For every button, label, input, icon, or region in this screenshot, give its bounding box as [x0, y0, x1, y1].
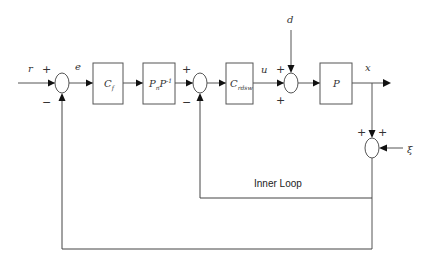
sign-sum4-left: + [357, 126, 366, 139]
arrow-icon [136, 80, 143, 87]
control-block-diagram: Cf PnP-1 Crdsw P r e u d x ξ + − + − + +… [0, 0, 429, 266]
summing-junction-1 [55, 73, 69, 93]
output-arrow-icon [383, 79, 391, 87]
disturbance-label: d [287, 14, 293, 25]
block-plant: P [320, 63, 352, 104]
arrow-icon [197, 93, 204, 101]
arrow-icon [219, 80, 226, 87]
arrow-icon [59, 93, 66, 101]
noise-label: ξ [407, 144, 413, 155]
sign-sum2-bottom: − [182, 96, 191, 109]
block-pnp-inverse: PnP-1 [143, 63, 175, 104]
sign-sum1-top: + [42, 63, 51, 76]
block-cf: Cf [93, 63, 123, 104]
sign-sum2-top: + [182, 63, 191, 76]
control-label: u [261, 64, 267, 75]
sign-sum3-top: + [276, 63, 285, 76]
block-crdsw: Crdsw [226, 63, 253, 104]
sign-sum1-bottom: − [42, 96, 51, 109]
arrow-icon [186, 80, 193, 87]
inner-loop-label: Inner Loop [254, 178, 302, 189]
summing-junction-2 [193, 73, 207, 93]
reference-label: r [28, 63, 34, 74]
output-label: x [365, 62, 371, 73]
arrow-icon [277, 80, 284, 87]
sign-sum3-bottom: + [276, 94, 285, 107]
summing-junction-4 [365, 138, 379, 158]
arrow-icon [48, 80, 55, 87]
feedback-paths [62, 83, 403, 249]
sign-sum4-right: + [378, 126, 387, 139]
arrow-icon [86, 80, 93, 87]
outer-loop-line [62, 96, 372, 249]
arrow-icon [288, 65, 295, 73]
error-label: e [75, 61, 81, 72]
block-plant-label: P [332, 78, 340, 89]
arrow-icon [379, 145, 387, 152]
summing-junction-3 [284, 73, 298, 93]
arrow-icon [369, 130, 376, 138]
arrow-icon [313, 80, 320, 87]
